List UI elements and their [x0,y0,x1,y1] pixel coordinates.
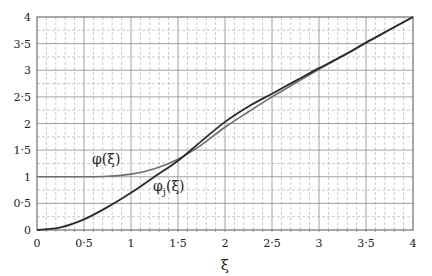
y-tick-label: 1 [24,171,31,184]
x-tick-label: 4 [410,237,417,250]
chart: 00·511·522·533·54 00·511·522·533·54 φ(ξ)… [0,0,432,276]
y-tick-label: 2 [24,118,31,131]
x-tick-labels: 00·511·522·533·54 [34,237,417,250]
x-tick-label: 0 [34,237,41,250]
x-tick-label: 2·5 [263,237,281,250]
y-tick-label: 0·5 [14,197,32,210]
x-tick-label: 1 [128,237,135,250]
x-tick-label: 1·5 [169,237,187,250]
x-tick-label: 3·5 [357,237,375,250]
x-tick-label: 2 [222,237,229,250]
y-tick-label: 1·5 [14,144,32,157]
x-tick-label: 3 [316,237,323,250]
y-tick-label: 3 [24,64,31,77]
y-tick-label: 3·5 [14,38,32,51]
y-tick-labels: 00·511·522·533·54 [14,11,32,237]
x-tick-label: 0·5 [75,237,93,250]
y-tick-label: 2·5 [14,91,32,104]
label-phi-j-main: φ [153,178,163,194]
y-tick-label: 4 [24,11,31,24]
label-phi-j-tail: (ξ) [166,178,185,194]
label-phi: φ(ξ) [92,151,120,167]
y-tick-label: 0 [24,224,31,237]
x-axis-title: ξ [221,256,229,274]
